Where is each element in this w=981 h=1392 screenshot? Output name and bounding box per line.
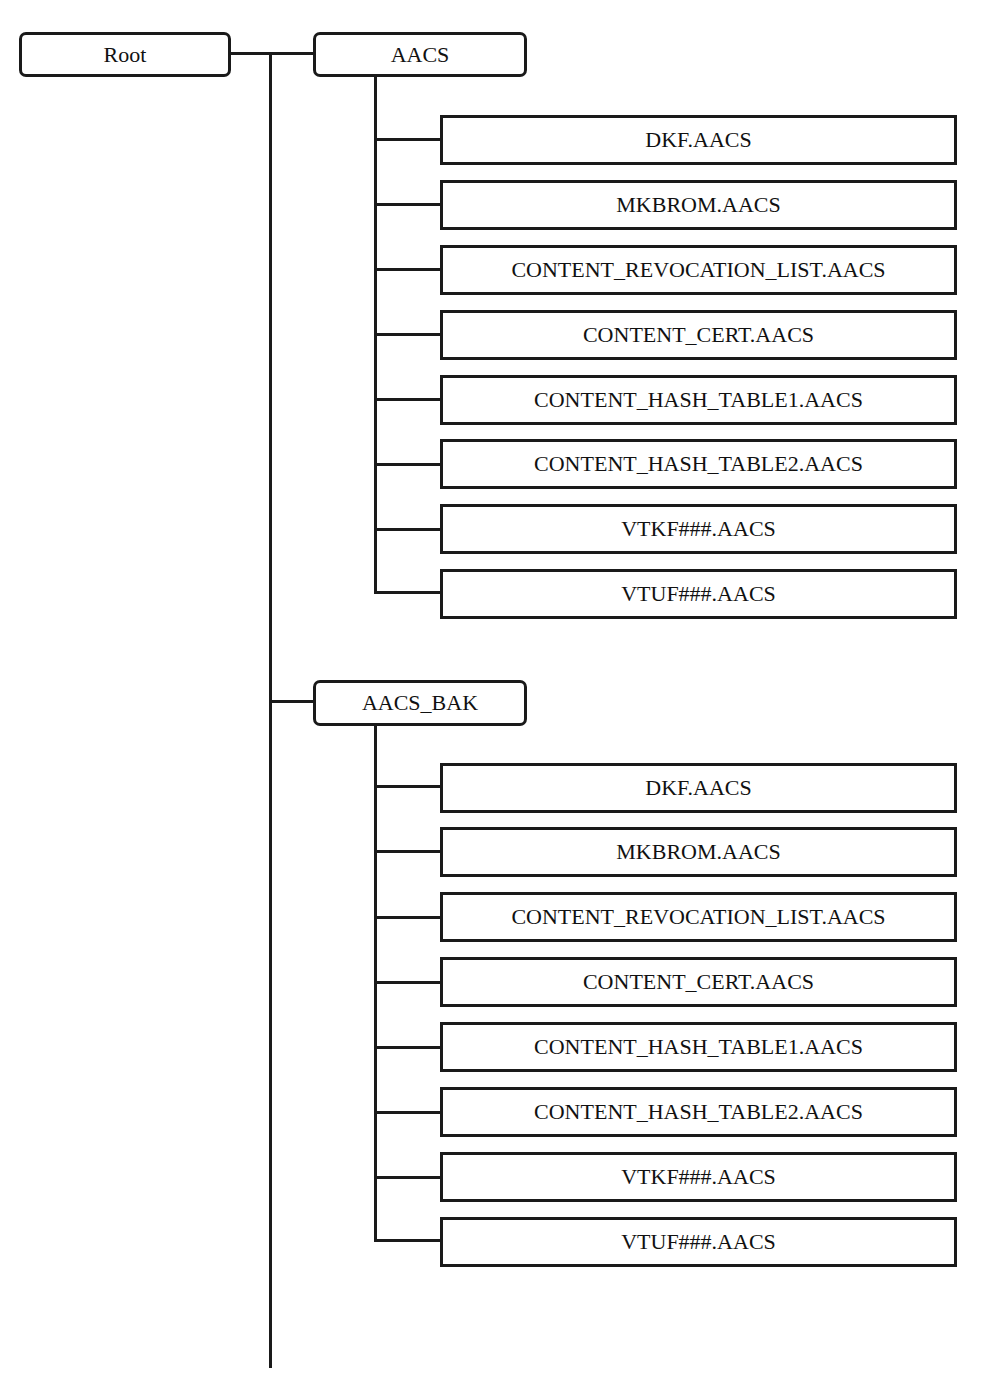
folder-node-aacs: AACS (313, 32, 527, 77)
file-connector (374, 916, 441, 919)
file-connector (374, 138, 441, 141)
file-label: CONTENT_HASH_TABLE2.AACS (534, 451, 863, 477)
file-label: CONTENT_HASH_TABLE1.AACS (534, 387, 863, 413)
file-label: DKF.AACS (645, 775, 751, 801)
file-label: CONTENT_CERT.AACS (583, 969, 814, 995)
file-node: MKBROM.AACS (440, 827, 957, 877)
file-connector (374, 528, 441, 531)
file-node: DKF.AACS (440, 763, 957, 813)
file-label: CONTENT_HASH_TABLE1.AACS (534, 1034, 863, 1060)
file-node: VTKF###.AACS (440, 1152, 957, 1202)
file-node: CONTENT_CERT.AACS (440, 957, 957, 1007)
file-node: CONTENT_CERT.AACS (440, 310, 957, 360)
file-node: VTUF###.AACS (440, 1217, 957, 1267)
root-label: Root (104, 42, 147, 68)
file-node: MKBROM.AACS (440, 180, 957, 230)
file-label: CONTENT_REVOCATION_LIST.AACS (511, 257, 885, 283)
file-node: CONTENT_HASH_TABLE2.AACS (440, 439, 957, 489)
file-connector (374, 203, 441, 206)
file-connector (374, 398, 441, 401)
file-label: VTUF###.AACS (621, 581, 776, 607)
file-label: CONTENT_CERT.AACS (583, 322, 814, 348)
file-connector (374, 1239, 441, 1242)
folder-label: AACS_BAK (362, 690, 478, 716)
file-connector (374, 981, 441, 984)
file-node: CONTENT_REVOCATION_LIST.AACS (440, 245, 957, 295)
file-label: MKBROM.AACS (616, 192, 780, 218)
folder-label: AACS (391, 42, 450, 68)
file-node: CONTENT_HASH_TABLE1.AACS (440, 1022, 957, 1072)
file-label: VTUF###.AACS (621, 1229, 776, 1255)
file-node: VTKF###.AACS (440, 504, 957, 554)
file-connector (374, 850, 441, 853)
folder-node-aacs-bak: AACS_BAK (313, 680, 527, 726)
file-label: VTKF###.AACS (621, 1164, 776, 1190)
file-connector (374, 1111, 441, 1114)
file-node: CONTENT_HASH_TABLE2.AACS (440, 1087, 957, 1137)
file-connector (374, 591, 441, 594)
file-label: MKBROM.AACS (616, 839, 780, 865)
file-label: CONTENT_HASH_TABLE2.AACS (534, 1099, 863, 1125)
root-node: Root (19, 32, 231, 77)
file-node: DKF.AACS (440, 115, 957, 165)
file-connector (374, 785, 441, 788)
file-node: CONTENT_HASH_TABLE1.AACS (440, 375, 957, 425)
file-node: VTUF###.AACS (440, 569, 957, 619)
file-connector (374, 333, 441, 336)
file-node: CONTENT_REVOCATION_LIST.AACS (440, 892, 957, 942)
root-trunk-line (269, 52, 272, 1368)
file-connector (374, 1046, 441, 1049)
file-connector (374, 1176, 441, 1179)
file-label: DKF.AACS (645, 127, 751, 153)
file-label: VTKF###.AACS (621, 516, 776, 542)
file-label: CONTENT_REVOCATION_LIST.AACS (511, 904, 885, 930)
file-connector (374, 463, 441, 466)
root-connector (231, 52, 315, 55)
trunk-to-aacs-bak-connector (269, 700, 315, 703)
file-connector (374, 268, 441, 271)
